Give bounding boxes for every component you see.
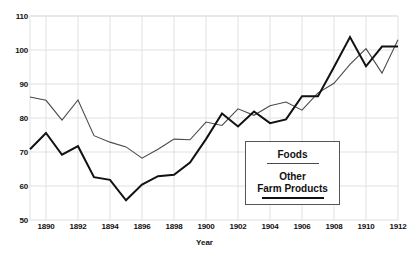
- x-tick-label: 1900: [189, 222, 223, 232]
- x-tick-label: 1904: [253, 222, 287, 232]
- y-tick-label: 80: [2, 114, 28, 123]
- y-tick-label: 60: [2, 182, 28, 191]
- legend-entry-foods: Foods: [246, 149, 339, 164]
- x-tick-label: 1912: [381, 222, 409, 232]
- y-tick-label: 90: [2, 80, 28, 89]
- x-tick-label: 1898: [157, 222, 191, 232]
- line-chart: 1101009080706050 18901892189418961898190…: [0, 0, 409, 259]
- x-tick-label: 1892: [61, 222, 95, 232]
- x-tick-label: 1896: [125, 222, 159, 232]
- x-axis-tick-labels: 1890189218941896189819001902190419061908…: [30, 222, 398, 234]
- x-tick-label: 1890: [29, 222, 63, 232]
- x-tick-label: 1902: [221, 222, 255, 232]
- legend-entry-other-farm-products: Other Farm Products: [246, 171, 339, 199]
- y-tick-label: 110: [2, 12, 28, 21]
- series-line-other-farm-products: [30, 37, 398, 200]
- x-tick-label: 1908: [317, 222, 351, 232]
- legend-swatch-other-farm-products: [262, 197, 324, 199]
- x-axis-title: Year: [0, 238, 409, 247]
- y-tick-label: 100: [2, 46, 28, 55]
- y-axis-tick-labels: 1101009080706050: [0, 16, 28, 220]
- y-tick-label: 70: [2, 148, 28, 157]
- legend-label-other-line1: Other: [246, 171, 339, 183]
- x-tick-label: 1894: [93, 222, 127, 232]
- y-tick-label: 50: [2, 216, 28, 225]
- legend: Foods Other Farm Products: [245, 141, 340, 205]
- series-line-foods: [30, 40, 398, 158]
- x-tick-label: 1910: [349, 222, 383, 232]
- legend-swatch-foods: [267, 163, 319, 164]
- legend-label-other-line2: Farm Products: [246, 183, 339, 195]
- plot-area: [30, 16, 398, 220]
- legend-label-foods: Foods: [246, 149, 339, 161]
- series-lines: [30, 16, 398, 220]
- x-tick-label: 1906: [285, 222, 319, 232]
